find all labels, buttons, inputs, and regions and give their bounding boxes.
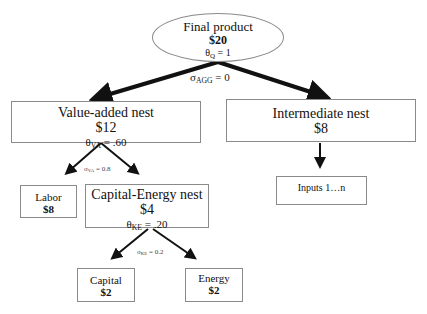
node-title: Final product <box>153 20 283 34</box>
node-capital: Capital $2 <box>77 268 135 302</box>
node-share: θKE = .20 <box>86 218 208 233</box>
node-intermediate-nest: Intermediate nest $8 <box>226 99 416 142</box>
node-capital-energy-nest: Capital-Energy nest $4 θKE = .20 <box>85 184 209 228</box>
elasticity-agg: σAGG = 0 <box>190 71 230 85</box>
elasticity-ke: σKE = 0.2 <box>137 248 164 256</box>
theta-subscript: KE <box>132 223 142 232</box>
node-energy: Energy $2 <box>185 268 243 302</box>
node-title: Labor <box>21 191 76 203</box>
node-inputs: Inputs 1…n <box>276 176 367 205</box>
node-value: $2 <box>186 284 242 296</box>
node-value: $20 <box>153 34 283 47</box>
arrow-final-to-intermediate <box>218 62 320 95</box>
sigma-value: = 0 <box>213 71 230 83</box>
sigma-value: = 0.8 <box>94 165 110 173</box>
node-value: $8 <box>227 121 415 136</box>
node-share: θQ = 1 <box>153 47 283 61</box>
theta-value: = .20 <box>142 218 167 230</box>
node-value: $12 <box>12 120 200 135</box>
theta-value: = 1 <box>215 47 231 58</box>
node-value-added-nest: Value-added nest $12 θVA = .60 <box>11 101 201 143</box>
node-share: θVA = .60 <box>12 136 200 151</box>
node-title: Capital-Energy nest <box>86 187 208 202</box>
node-title: Inputs 1…n <box>277 182 366 193</box>
node-labor: Labor $8 <box>20 185 77 218</box>
node-value: $8 <box>21 203 76 215</box>
theta-value: = .60 <box>101 136 126 148</box>
sigma-subscript: AGG <box>196 76 213 85</box>
theta-subscript: VA <box>91 141 101 150</box>
node-title: Capital <box>78 274 134 286</box>
elasticity-va: σVA = 0.8 <box>84 165 110 173</box>
node-title: Intermediate nest <box>227 106 415 121</box>
node-value: $2 <box>78 286 134 298</box>
sigma-value: = 0.2 <box>147 248 163 256</box>
node-value: $4 <box>86 202 208 217</box>
node-title: Value-added nest <box>12 105 200 120</box>
node-final-product: Final product $20 θQ = 1 <box>152 13 284 62</box>
node-title: Energy <box>186 272 242 284</box>
